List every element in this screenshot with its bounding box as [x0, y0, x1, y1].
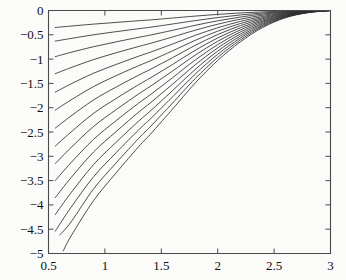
data-curve — [55, 11, 330, 232]
tick-labels-group: 0.511.522.530−0.5−1−1.5−2−2.5−3−3.5−4−4.… — [20, 3, 334, 273]
x-axis-tick-label: 2.5 — [266, 258, 282, 273]
data-curve — [55, 11, 330, 74]
data-curve — [55, 11, 330, 198]
y-axis-tick-label: −1 — [30, 52, 44, 67]
y-axis-tick-label: −5 — [30, 246, 44, 261]
curve-series-group — [55, 11, 330, 252]
x-axis-tick-label: 2 — [214, 258, 221, 273]
data-curve — [55, 11, 330, 57]
y-axis-tick-label: −0.5 — [20, 27, 44, 42]
data-curve — [55, 11, 330, 164]
y-axis-tick-label: −2.5 — [20, 125, 44, 140]
x-axis-tick-label: 1.5 — [153, 258, 169, 273]
data-curve — [60, 11, 331, 236]
line-chart: 0.511.522.530−0.5−1−1.5−2−2.5−3−3.5−4−4.… — [0, 0, 346, 280]
x-axis-tick-label: 1 — [102, 258, 109, 273]
y-axis-tick-label: 0 — [37, 3, 44, 18]
y-axis-tick-label: −1.5 — [20, 76, 44, 91]
y-axis-tick-label: −4 — [30, 197, 44, 212]
x-axis-tick-label: 3 — [327, 258, 334, 273]
data-curve — [55, 11, 330, 129]
y-axis-tick-label: −4.5 — [20, 222, 44, 237]
figure-container: 0.511.522.530−0.5−1−1.5−2−2.5−3−3.5−4−4.… — [0, 0, 346, 280]
y-axis-tick-label: −3.5 — [20, 173, 44, 188]
y-axis-tick-label: −3 — [30, 149, 44, 164]
y-axis-tick-label: −2 — [30, 100, 44, 115]
